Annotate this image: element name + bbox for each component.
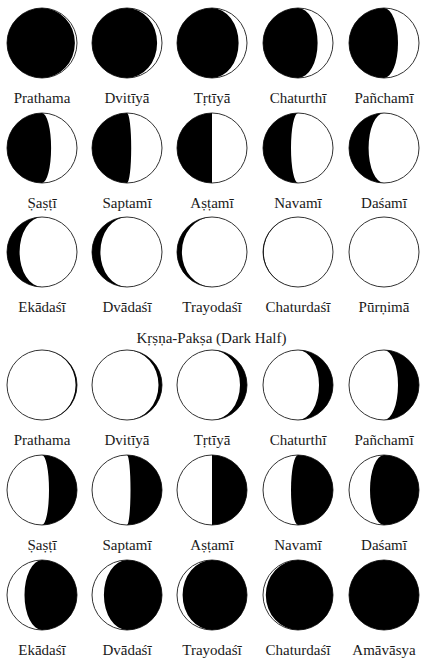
phase-label: Prathama (0, 431, 87, 449)
phase-label: Daśamī (339, 536, 423, 554)
moon-phase-icon (261, 6, 335, 80)
moon-phase-icon (90, 215, 164, 289)
phase-label: Ṣaṣṭī (0, 536, 87, 554)
phase-label: Aṣṭamī (167, 536, 257, 554)
moon-phase-icon (347, 453, 421, 527)
phase-label: Saptamī (82, 194, 172, 212)
phase-label: Dvitīyā (82, 89, 172, 107)
phase-label: Chaturthī (253, 89, 343, 107)
phase-label: Tṛtīyā (167, 431, 257, 449)
phase-label: Navamī (253, 194, 343, 212)
moon-phase-icon (5, 348, 79, 422)
moon-phase-icon (347, 348, 421, 422)
phase-label: Ṣaṣṭī (0, 194, 87, 212)
phase-label: Dvitīyā (82, 431, 172, 449)
moon-phase-icon (261, 111, 335, 185)
moon-phase-icon (90, 558, 164, 632)
phase-label: Pūrṇimā (339, 298, 423, 316)
phase-label: Daśamī (339, 194, 423, 212)
moon-phase-icon (261, 453, 335, 527)
moon-phase-icon (175, 558, 249, 632)
phase-label: Pañchamī (339, 89, 423, 107)
moon-phase-icon (347, 215, 421, 289)
phase-label: Aṣṭamī (167, 194, 257, 212)
moon-phase-icon (5, 6, 79, 80)
moon-phase-icon (347, 111, 421, 185)
moon-phase-icon (347, 6, 421, 80)
moon-phase-icon (90, 453, 164, 527)
moon-phase-icon (90, 111, 164, 185)
phase-label: Ekādaśī (0, 641, 87, 659)
phase-label: Chaturthī (253, 431, 343, 449)
moon-phase-icon (175, 453, 249, 527)
phase-label: Saptamī (82, 536, 172, 554)
phase-label: Prathama (0, 89, 87, 107)
moon-phase-icon (175, 111, 249, 185)
phase-label: Dvādaśī (82, 298, 172, 316)
phase-label: Amāvāsya (339, 641, 423, 659)
moon-phase-icon (5, 111, 79, 185)
phase-label: Navamī (253, 536, 343, 554)
moon-phase-icon (90, 6, 164, 80)
phase-label: Dvādaśī (82, 641, 172, 659)
moon-phase-icon (175, 348, 249, 422)
section-heading-krishna-paksha: Kṛṣṇa-Pakṣa (Dark Half) (0, 329, 423, 347)
moon-phase-icon (261, 348, 335, 422)
moon-phase-icon (5, 453, 79, 527)
moon-phases-diagram: Kṛṣṇa-Pakṣa (Dark Half) PrathamaDvitīyāT… (0, 0, 423, 664)
phase-label: Chaturdaśī (253, 298, 343, 316)
phase-label: Tṛtīyā (167, 89, 257, 107)
moon-phase-icon (261, 558, 335, 632)
moon-phase-icon (5, 558, 79, 632)
moon-phase-icon (347, 558, 421, 632)
moon-phase-icon (261, 215, 335, 289)
phase-label: Trayodaśī (167, 298, 257, 316)
moon-phase-icon (175, 215, 249, 289)
phase-label: Ekādaśī (0, 298, 87, 316)
phase-label: Pañchamī (339, 431, 423, 449)
moon-phase-icon (175, 6, 249, 80)
phase-label: Chaturdaśī (253, 641, 343, 659)
moon-phase-icon (90, 348, 164, 422)
phase-label: Trayodaśī (167, 641, 257, 659)
moon-phase-icon (5, 215, 79, 289)
